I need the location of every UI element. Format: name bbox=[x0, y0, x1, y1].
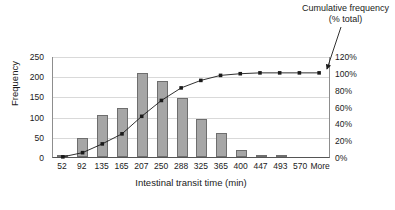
x-axis-tick-label: 92 bbox=[77, 161, 86, 171]
plot-area bbox=[52, 57, 330, 158]
y-axis-right-tick-label: 120% bbox=[335, 53, 357, 62]
cumulative-line-marker bbox=[61, 155, 65, 159]
x-axis-tick-label: 250 bbox=[154, 161, 168, 171]
y-axis-left-tick-label: 150 bbox=[30, 93, 44, 102]
y-axis-right-tick-label: 100% bbox=[335, 70, 357, 79]
x-axis-tick-label: 570 bbox=[293, 161, 307, 171]
x-axis-tick-label: 165 bbox=[114, 161, 128, 171]
x-axis-tick-label: 325 bbox=[194, 161, 208, 171]
chart-container: Cumulative frequency (% total) 050100150… bbox=[0, 0, 395, 210]
y-axis-title: Frequency bbox=[9, 44, 20, 124]
y-axis-left-tick-label: 0 bbox=[39, 154, 44, 163]
x-axis-tick-label: 207 bbox=[134, 161, 148, 171]
x-axis-labels: 5292135165207250288325365400447493570Mor… bbox=[52, 161, 330, 175]
cumulative-line-marker bbox=[120, 132, 124, 136]
cumulative-line-marker bbox=[100, 142, 104, 146]
y-axis-right-tick-label: 0% bbox=[335, 154, 347, 163]
y-axis-right-tick-label: 40% bbox=[335, 120, 352, 129]
x-axis-tick-label: More bbox=[310, 161, 329, 171]
cumulative-line-marker bbox=[219, 74, 223, 78]
x-axis-tick-label: 288 bbox=[174, 161, 188, 171]
cumulative-line-marker bbox=[317, 71, 321, 75]
x-axis-tick-label: 52 bbox=[57, 161, 66, 171]
cumulative-line-marker bbox=[238, 72, 242, 76]
y-axis-right-tick-label: 60% bbox=[335, 103, 352, 112]
cumulative-line-marker bbox=[160, 99, 164, 103]
y-axis-left-tick-label: 250 bbox=[30, 53, 44, 62]
x-axis-title: Intestinal transit time (min) bbox=[52, 177, 330, 188]
cumulative-line-marker bbox=[278, 71, 282, 75]
y-axis-right-tick-label: 80% bbox=[335, 86, 352, 95]
cumulative-line-marker bbox=[179, 86, 183, 90]
cumulative-frequency-annotation: Cumulative frequency (% total) bbox=[302, 3, 389, 25]
x-axis-tick-label: 400 bbox=[234, 161, 248, 171]
y-axis-left: 050100150200250 bbox=[0, 57, 48, 158]
x-axis-tick-label: 493 bbox=[273, 161, 287, 171]
cumulative-line-marker bbox=[199, 79, 203, 83]
y-axis-right: 0%20%40%60%80%100%120% bbox=[332, 57, 382, 158]
cumulative-line-marker bbox=[258, 71, 262, 75]
y-axis-left-tick-label: 50 bbox=[35, 134, 44, 143]
y-axis-left-tick-label: 200 bbox=[30, 73, 44, 82]
cumulative-line-marker bbox=[140, 115, 144, 119]
cumulative-line-marker bbox=[81, 151, 85, 155]
x-axis-tick-label: 365 bbox=[214, 161, 228, 171]
y-axis-left-tick-label: 100 bbox=[30, 113, 44, 122]
annotation-line-1: Cumulative frequency bbox=[302, 3, 389, 13]
cumulative-line-marker bbox=[298, 71, 302, 75]
x-axis-tick-label: 447 bbox=[253, 161, 267, 171]
annotation-line-2: (% total) bbox=[302, 14, 389, 25]
cumulative-line-series bbox=[53, 57, 329, 157]
y-axis-right-tick-label: 20% bbox=[335, 137, 352, 146]
x-axis-tick-label: 135 bbox=[95, 161, 109, 171]
